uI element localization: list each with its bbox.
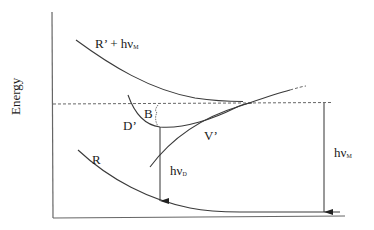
curve-vibronic <box>150 90 290 167</box>
label-barrier: B <box>144 107 153 120</box>
label-upper-repulsive: R’ + hνM <box>95 37 139 50</box>
y-axis-label: Energy <box>8 78 24 115</box>
label-vibronic: V’ <box>204 129 218 142</box>
y-axis <box>52 12 53 218</box>
barrier-bracket <box>156 105 158 126</box>
label-dissociation-emission: hνD <box>170 164 187 177</box>
dashed-energy-level <box>53 103 333 105</box>
label-dissociative: D’ <box>123 119 137 132</box>
label-molecular-emission: hνM <box>334 146 352 159</box>
label-ground-repulsive: R <box>92 153 101 166</box>
curve-ground-repulsive <box>78 150 340 212</box>
x-axis <box>53 216 345 218</box>
curve-vibronic-dashed <box>290 86 306 90</box>
energy-diagram <box>0 0 374 230</box>
